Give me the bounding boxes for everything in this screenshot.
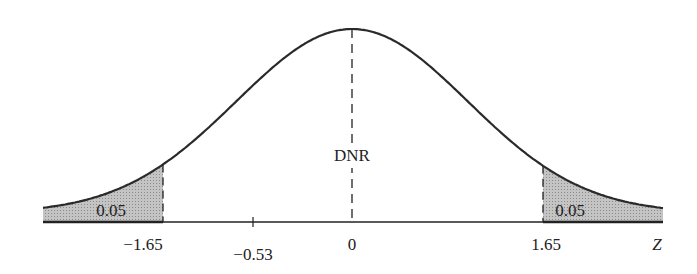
dnr-label: DNR	[334, 146, 371, 165]
normal-curve-diagram: DNR 0.05 0.05 −1.65 −0.53 0 1.65 Z	[0, 0, 697, 274]
z-axis-label: Z	[652, 235, 662, 254]
normal-curve	[43, 29, 663, 208]
tick-label-1-65: 1.65	[531, 235, 561, 254]
right-tail-area-label: 0.05	[555, 201, 585, 220]
tick-label-minus-0-53: −0.53	[233, 245, 272, 264]
left-tail-area-label: 0.05	[96, 201, 126, 220]
tick-label-zero: 0	[348, 235, 357, 254]
tick-label-minus-1-65: −1.65	[123, 235, 162, 254]
